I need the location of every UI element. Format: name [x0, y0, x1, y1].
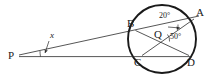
angle-label-50: 50°: [170, 33, 181, 41]
angle-label-20: 20°: [159, 12, 170, 20]
point-label-d: D: [187, 57, 195, 68]
angle-label-x: x: [50, 31, 54, 40]
angle-arrowhead-p: [45, 50, 48, 53]
angle-arc-p: [40, 51, 41, 57]
point-label-b: B: [127, 18, 134, 29]
point-label-a: A: [196, 7, 204, 18]
geometry-figure: P A B C D Q 20° 50° x: [0, 0, 211, 79]
point-label-c: C: [134, 57, 141, 68]
point-label-p: P: [8, 50, 14, 61]
point-label-q: Q: [154, 29, 162, 40]
